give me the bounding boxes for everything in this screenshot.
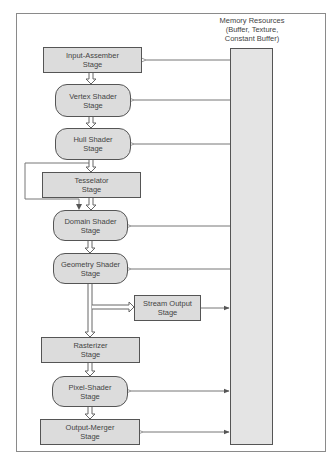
stream-output-stage: Stream Output Stage: [134, 295, 201, 321]
stage-sublabel: Stage: [80, 392, 100, 401]
hull-shader-stage: Hull Shader Stage: [55, 128, 131, 160]
stage-sublabel: Stage: [83, 144, 103, 153]
stage-sublabel: Stage: [82, 185, 102, 194]
tess-to-ds-arrow: [86, 197, 96, 210]
stage-sublabel: Stage: [81, 350, 101, 359]
ia-to-vs-arrow: [86, 72, 96, 84]
stage-sublabel: Stage: [81, 269, 101, 278]
ds-to-gs-arrow: [85, 240, 95, 253]
stage-label: Vertex Shader: [69, 92, 117, 101]
vs-to-hs-arrow: [86, 117, 96, 128]
stage-label: Stream Output: [143, 299, 192, 308]
hs-to-tess-arrow: [86, 160, 96, 172]
stage-sublabel: Stage: [158, 308, 178, 317]
pipeline-diagram: Memory Resources (Buffer, Texture, Const…: [0, 0, 336, 468]
stage-sublabel: Stage: [80, 432, 100, 441]
pixel-shader-stage: Pixel-Shader Stage: [52, 376, 128, 407]
rasterizer-stage: Rasterizer Stage: [41, 337, 140, 363]
gs-to-stream-output-arrow: [92, 302, 134, 312]
geometry-shader-stage: Geometry Shader Stage: [53, 253, 128, 284]
tessellator-stage: Tesselator Stage: [42, 172, 141, 198]
stage-label: Output-Merger: [66, 423, 115, 432]
stage-label: Domain Shader: [64, 217, 116, 226]
stage-sublabel: Stage: [83, 60, 103, 69]
gs-to-rasterizer-arrow: [85, 284, 95, 337]
output-merger-stage: Output-Merger Stage: [40, 419, 140, 445]
stage-label: Geometry Shader: [61, 260, 120, 269]
stage-label: Pixel-Shader: [69, 383, 112, 392]
rast-to-ps-arrow: [85, 362, 95, 376]
stage-label: Tesselator: [74, 176, 108, 185]
domain-shader-stage: Domain Shader Stage: [53, 210, 128, 241]
stage-sublabel: Stage: [81, 226, 101, 235]
ps-to-om-arrow: [85, 406, 95, 419]
input-assembler-stage: Input-Assember Stage: [43, 47, 142, 73]
stage-sublabel: Stage: [83, 101, 103, 110]
stage-label: Rasterizer: [73, 341, 107, 350]
stage-label: Input-Assember: [66, 51, 119, 60]
vertex-shader-stage: Vertex Shader Stage: [55, 84, 131, 117]
stage-label: Hull Shader: [73, 135, 112, 144]
